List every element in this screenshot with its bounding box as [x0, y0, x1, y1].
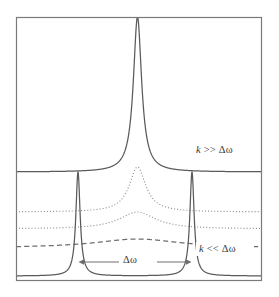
lineshape-plot	[0, 0, 279, 297]
label-strong-coupling-text: >> Δω	[201, 144, 233, 155]
label-strong-coupling: k >> Δω	[196, 144, 233, 155]
figure-container: k >> Δω k << Δω Δω	[0, 0, 279, 297]
label-splitting: Δω	[123, 254, 137, 265]
label-weak-coupling-text: << Δω	[204, 243, 236, 254]
label-weak-coupling: k << Δω	[199, 243, 236, 254]
